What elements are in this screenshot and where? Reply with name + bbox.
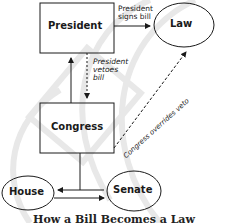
- senate-node: Senate: [113, 184, 152, 195]
- president-signs-line2: signs bill: [118, 13, 153, 21]
- president-signs-label: President signs bill: [118, 5, 153, 21]
- president-node: President: [48, 20, 102, 31]
- house-node: House: [9, 186, 44, 197]
- law-node: Law: [170, 18, 192, 29]
- congress-node: Congress: [51, 121, 103, 132]
- president-vetoes-line3: bill: [93, 74, 128, 82]
- diagram-title: How a Bill Becomes a Law: [0, 213, 228, 223]
- president-vetoes-label: President vetoes bill: [93, 58, 128, 82]
